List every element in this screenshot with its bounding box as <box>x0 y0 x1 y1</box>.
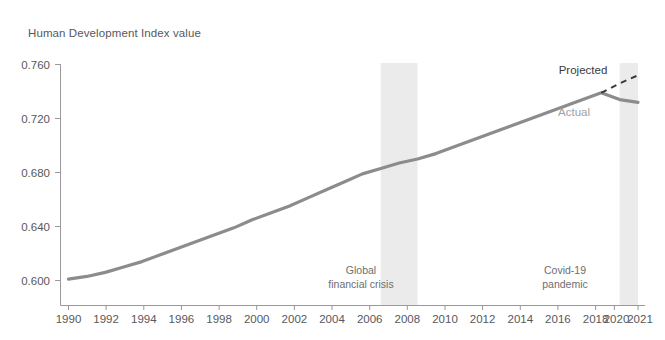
label-actual: Actual <box>558 106 590 118</box>
x-tick-label: 2004 <box>319 313 345 325</box>
x-tick-label: 2002 <box>282 313 308 325</box>
y-tick-label: 0.720 <box>21 113 50 125</box>
y-tick-label: 0.760 <box>21 59 50 71</box>
band-label-covid-19-pandemic-line1: Covid-19 <box>544 264 586 276</box>
x-tick-label: 2021 <box>627 313 653 325</box>
series-labels-group: Projected Actual <box>558 64 607 118</box>
band-label-covid-19-pandemic-line2: pandemic <box>542 278 588 290</box>
shaded-region-global-financial-crisis <box>381 63 418 305</box>
x-tick-label: 2008 <box>395 313 421 325</box>
x-tick-label: 2020 <box>604 313 630 325</box>
y-ticks-group: 0.760 0.720 0.680 0.640 0.600 <box>21 59 60 287</box>
x-ticks-group: 1990 1992 1994 1996 1998 2000 2002 2004 … <box>56 306 653 326</box>
x-tick-label: 2016 <box>545 313 571 325</box>
band-labels-group: Global financial crisis Covid-19 pandemi… <box>328 264 587 290</box>
y-tick-label: 0.640 <box>21 221 50 233</box>
x-tick-label: 1992 <box>93 313 119 325</box>
x-tick-label: 2014 <box>508 313 534 325</box>
x-tick-label: 2006 <box>357 313 383 325</box>
x-tick-label: 2010 <box>432 313 458 325</box>
label-projected: Projected <box>559 64 608 76</box>
hdi-chart: Human Development Index value 0.760 0.72… <box>0 0 665 340</box>
y-tick-label: 0.600 <box>21 275 50 287</box>
x-tick-label: 1996 <box>169 313 195 325</box>
x-tick-label: 1990 <box>56 313 82 325</box>
shaded-regions-group <box>381 63 638 305</box>
y-tick-label: 0.680 <box>21 167 50 179</box>
band-label-global-financial-crisis-line1: Global <box>346 264 376 276</box>
x-tick-label: 1994 <box>131 313 157 325</box>
band-label-global-financial-crisis-line2: financial crisis <box>328 278 393 290</box>
x-tick-label: 2012 <box>470 313 496 325</box>
x-tick-label: 1998 <box>206 313 232 325</box>
series-line-actual <box>69 93 639 279</box>
x-tick-label: 2000 <box>244 313 270 325</box>
chart-plot-area: 0.760 0.720 0.680 0.640 0.600 1990 <box>0 0 665 340</box>
